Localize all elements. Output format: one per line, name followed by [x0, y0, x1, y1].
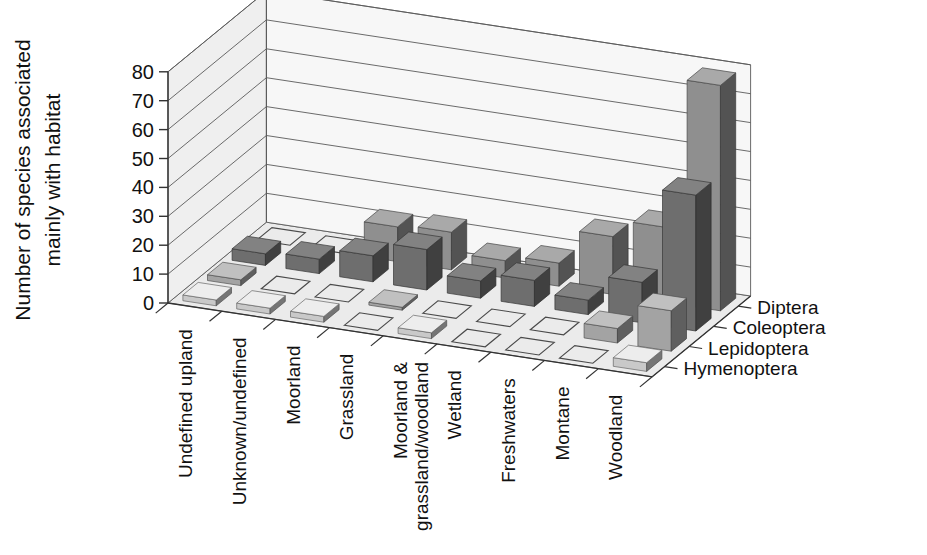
series-label-hymenoptera: Hymenoptera	[684, 358, 798, 379]
y-tick-label: 40	[132, 176, 154, 198]
bar-side-face	[696, 183, 711, 331]
x-category-label-line: Moorland &	[390, 362, 411, 459]
y-tick-label: 20	[132, 234, 154, 256]
x-axis-tick	[532, 360, 544, 370]
x-axis-tick	[263, 319, 275, 329]
x-category-label-line: Undefined upland	[175, 329, 196, 478]
series-label-coleoptera: Coleoptera	[733, 317, 826, 338]
depth-axis-tick	[714, 326, 727, 328]
bar-coleoptera-2	[340, 238, 389, 282]
x-axis-tick	[586, 369, 598, 379]
y-tick-label: 30	[132, 205, 154, 227]
x-category-label: Woodland	[605, 395, 626, 480]
x-category-label: Montane	[552, 387, 573, 461]
depth-axis-tick	[689, 347, 702, 349]
depth-axis-tick	[738, 306, 751, 308]
x-category-label: Wetland	[444, 370, 465, 439]
x-category-label: Grassland	[336, 354, 357, 441]
y-axis-title-line2: mainly with habitat	[41, 93, 64, 266]
x-category-label: Moorland	[283, 346, 304, 425]
x-axis-tick	[425, 344, 437, 354]
x-category-label: Unknown/undefined	[229, 337, 250, 505]
y-tick-label: 0	[143, 292, 154, 314]
x-axis-tick	[210, 311, 222, 321]
y-tick-label: 80	[132, 61, 154, 83]
y-axis: 01020304050607080	[132, 61, 168, 314]
x-category-label-line: Woodland	[605, 395, 626, 480]
x-category-label-line: grassland/woodland	[411, 362, 432, 531]
y-tick-label: 50	[132, 148, 154, 170]
depth-axis-tick	[665, 367, 678, 369]
x-category-label-line: Montane	[552, 387, 573, 461]
x-category-label-line: Moorland	[283, 346, 304, 425]
y-tick-label: 60	[132, 119, 154, 141]
x-axis-tick	[317, 328, 329, 338]
y-axis-title-line1: Number of species associated	[11, 39, 34, 320]
x-category-label-line: Unknown/undefined	[229, 337, 250, 505]
three-d-bar-chart: 01020304050607080Number of species assoc…	[0, 0, 927, 555]
x-category-label: Freshwaters	[498, 378, 519, 483]
series-label-lepidoptera: Lepidoptera	[708, 338, 809, 359]
bar-coleoptera-5	[501, 263, 550, 307]
x-category-label-line: Freshwaters	[498, 378, 519, 483]
x-category-label-line: Wetland	[444, 370, 465, 439]
series-label-diptera: Diptera	[757, 297, 819, 318]
x-category-label-line: Grassland	[336, 354, 357, 441]
bar-lepidoptera-8	[638, 293, 687, 351]
bar-coleoptera-3	[394, 232, 443, 290]
x-axis-tick	[479, 352, 491, 362]
bar-front-face	[638, 306, 671, 352]
y-axis-title: Number of species associatedmainly with …	[11, 39, 64, 320]
x-category-label: Undefined upland	[175, 329, 196, 478]
bar-side-face	[720, 73, 735, 311]
x-axis-tick	[156, 303, 168, 313]
x-axis-tick	[371, 336, 383, 346]
x-axis-tick	[640, 377, 652, 387]
bar-front-face	[394, 244, 427, 290]
x-category-label: Moorland &grassland/woodland	[390, 362, 432, 531]
chart-figure: 01020304050607080Number of species assoc…	[0, 0, 927, 555]
y-tick-label: 10	[132, 263, 154, 285]
y-tick-label: 70	[132, 90, 154, 112]
